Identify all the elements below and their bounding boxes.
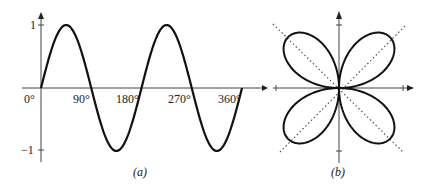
x-label-90: 90° <box>73 92 90 106</box>
y-label-neg1: −1 <box>21 143 34 157</box>
panel-a: 1 −1 0° 90° 180° 270° 360° (a) <box>21 12 268 179</box>
x-label-0: 0° <box>24 92 35 106</box>
polar-x-arrow-icon <box>407 85 414 91</box>
origin-dot <box>337 86 341 90</box>
panel-b: (b) <box>273 11 414 179</box>
x-axis-arrow-icon <box>262 85 268 91</box>
figure: 1 −1 0° 90° 180° 270° 360° (a) (b) <box>0 0 433 189</box>
y-label-1: 1 <box>30 18 36 32</box>
caption-b: (b) <box>331 165 345 179</box>
y-axis-arrow-icon <box>38 12 44 19</box>
x-label-360: 360° <box>218 92 241 106</box>
x-label-270: 270° <box>168 92 191 106</box>
caption-a: (a) <box>133 165 147 179</box>
polar-y-arrow-icon <box>336 11 342 19</box>
x-label-180: 180° <box>116 92 139 106</box>
